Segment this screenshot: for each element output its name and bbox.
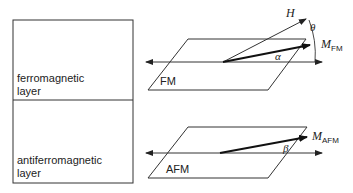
m-fm-vector [223,45,310,62]
m-fm-label: MFM [320,37,343,53]
antiferromagnetic-layer-label: antiferromagnetic [17,154,102,166]
m-afm-vector [220,137,307,153]
fm-plane-label: FM [160,75,176,87]
theta-label: θ [310,21,316,33]
layer-stack: ferromagnetic layer antiferromagnetic la… [13,20,133,183]
ferromagnetic-layer-label: ferromagnetic [17,72,85,84]
afm-plane-label: AFM [166,163,189,175]
antiferromagnetic-layer-label-2: layer [17,167,41,179]
h-label: H [285,6,296,20]
alpha-label: α [275,50,281,62]
afm-panel: AFM β MAFM [146,127,339,178]
ferromagnetic-layer-label-2: layer [17,85,41,97]
m-afm-label: MAFM [311,129,339,145]
fm-panel: FM H θ α MFM [146,6,343,90]
exchange-bias-diagram: ferromagnetic layer antiferromagnetic la… [0,0,353,193]
beta-label: β [282,142,289,154]
